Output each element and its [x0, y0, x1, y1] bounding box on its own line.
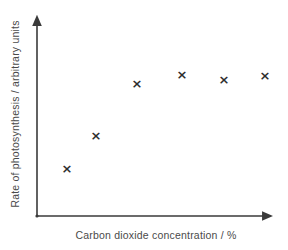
- data-point-marker: ×: [131, 77, 144, 90]
- y-axis-label: Rate of photosynthesis / arbitrary units: [9, 7, 25, 222]
- data-point-marker: ×: [176, 68, 189, 81]
- data-point-marker: ×: [259, 69, 272, 82]
- data-point-marker: ×: [90, 129, 103, 142]
- chart-figure: ×××××× Carbon dioxide concentration / % …: [0, 0, 288, 250]
- x-axis-label: Carbon dioxide concentration / %: [37, 229, 275, 241]
- plot-area: ××××××: [37, 13, 275, 216]
- data-point-marker: ×: [61, 162, 74, 175]
- data-point-marker: ×: [218, 73, 231, 86]
